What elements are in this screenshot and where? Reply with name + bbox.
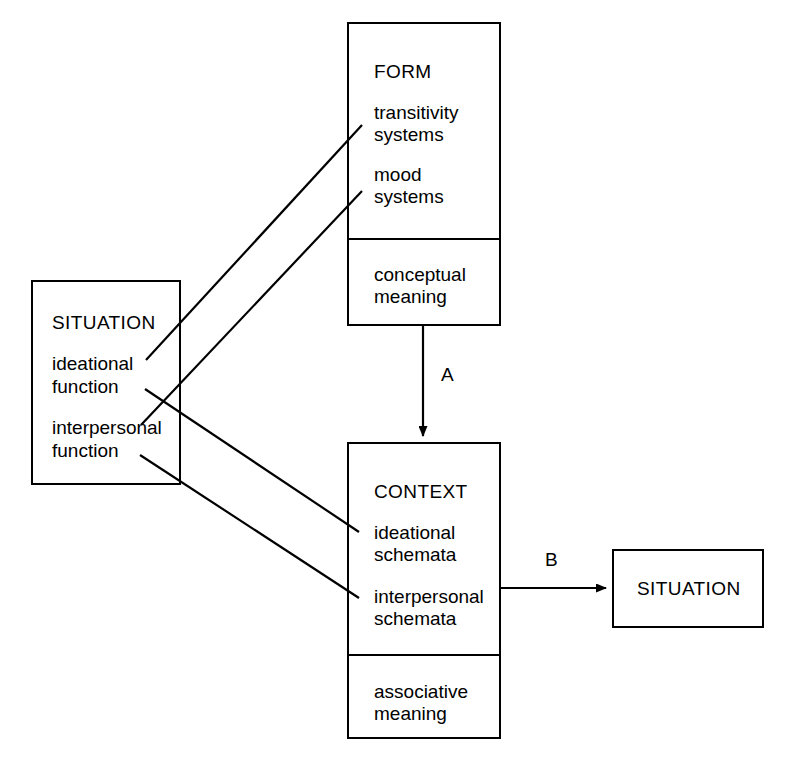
arrow-a-label: A — [441, 365, 454, 384]
form-item-conceptual: conceptual — [374, 265, 466, 284]
context-item-interpersonal: interpersonal — [374, 587, 484, 606]
form-item-transitivity-systems: systems — [374, 125, 444, 144]
situation-left-item-ideational-function: function — [52, 377, 119, 396]
form-item-mood: mood — [374, 165, 422, 184]
form-box-heading: FORM — [374, 62, 432, 81]
situation-right-heading: SITUATION — [637, 579, 741, 598]
form-item-conceptual-meaning: meaning — [374, 287, 447, 306]
form-item-mood-systems: systems — [374, 187, 444, 206]
context-item-ideational-schemata: schemata — [374, 545, 456, 564]
form-item-transitivity: transitivity — [374, 103, 458, 122]
situation-left-item-ideational: ideational — [52, 354, 133, 373]
context-item-ideational: ideational — [374, 523, 455, 542]
diagram-canvas: FORM transitivity systems mood systems c… — [0, 0, 793, 771]
form-box-divider — [347, 238, 501, 240]
context-item-associative: associative — [374, 682, 468, 701]
context-item-associative-meaning: meaning — [374, 704, 447, 723]
situation-left-heading: SITUATION — [52, 313, 156, 332]
arrow-b-label: B — [545, 550, 558, 569]
context-box-divider — [347, 654, 501, 656]
context-box-heading: CONTEXT — [374, 482, 468, 501]
situation-left-item-interpersonal-function: function — [52, 441, 119, 460]
situation-left-item-interpersonal: interpersonal — [52, 418, 162, 437]
context-item-interpersonal-schemata: schemata — [374, 609, 456, 628]
